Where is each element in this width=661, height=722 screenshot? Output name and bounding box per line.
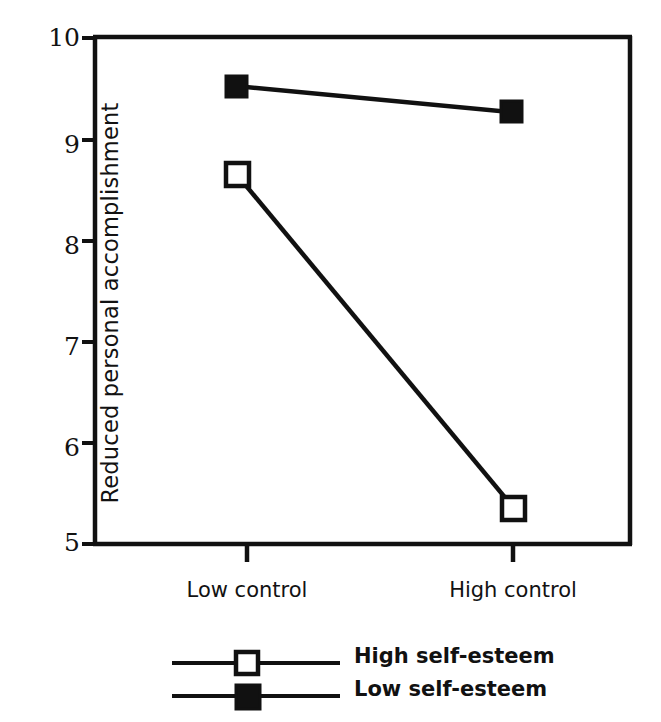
data-point-marker-open xyxy=(226,163,249,186)
legend-swatch-open-square xyxy=(168,648,348,678)
legend-entry-high-self-esteem: High self-esteem xyxy=(168,648,638,678)
series-high-self-esteem xyxy=(226,163,525,520)
legend: High self-esteem Low self-esteem xyxy=(168,648,638,718)
legend-swatch-filled-square xyxy=(168,681,348,711)
data-point-marker-filled xyxy=(501,101,522,122)
interaction-plot-figure: Reduced personal accomplishment 10 9 8 7… xyxy=(0,0,661,722)
data-point-marker-open xyxy=(502,497,525,520)
plot-area xyxy=(0,0,661,640)
data-point-marker-filled xyxy=(226,76,247,97)
series-low-self-esteem xyxy=(226,76,522,122)
axes-frame xyxy=(93,36,632,545)
legend-label-high-self-esteem: High self-esteem xyxy=(354,644,555,668)
x-axis-ticks xyxy=(247,544,513,562)
legend-entry-low-self-esteem: Low self-esteem xyxy=(168,681,638,711)
legend-label-low-self-esteem: Low self-esteem xyxy=(354,677,547,701)
